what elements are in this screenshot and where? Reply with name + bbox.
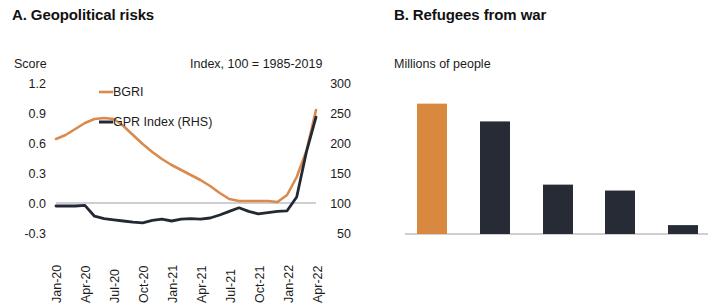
bar-ukraine-war [417, 104, 447, 234]
figure-container: A. Geopolitical risks Score Index, 100 =… [0, 0, 712, 307]
panel-b-plot [0, 0, 356, 307]
panel-b-title: B. Refugees from war [394, 6, 546, 23]
bar-vietnam-war [543, 185, 573, 234]
bar-afghanistan-war [605, 191, 635, 234]
bar-balkan-wars [668, 225, 698, 234]
panel-refugees-from-war: B. Refugees from war Millions of people … [356, 0, 712, 307]
bar-syrian-war [480, 121, 510, 234]
panel-b-axis-unit: Millions of people [394, 57, 491, 71]
